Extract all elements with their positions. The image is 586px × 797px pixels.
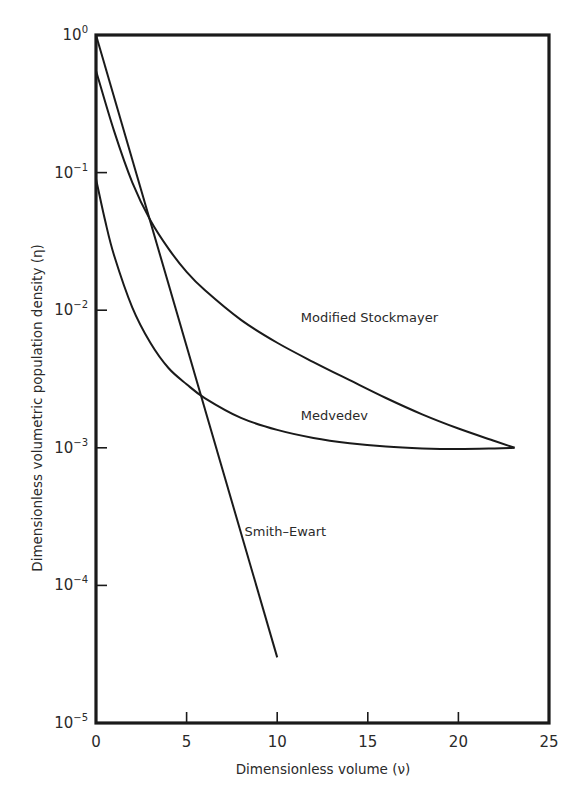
series-line-smith-ewart: [96, 35, 277, 657]
series-label: Medvedev: [301, 408, 368, 423]
x-tick-label: 15: [358, 733, 377, 751]
annotation-group: Modified StockmayerMedvedevSmith–Ewart: [245, 310, 439, 539]
chart: 0510152025 10010−110−210−310−410−5 Modif…: [0, 0, 586, 797]
x-tick-label: 25: [539, 733, 558, 751]
x-axis: 0510152025: [91, 712, 558, 751]
y-tick-label: 100: [63, 24, 88, 44]
y-tick-label: 10−2: [54, 299, 88, 319]
y-tick-label: 10−5: [54, 712, 88, 732]
x-tick-label: 5: [182, 733, 192, 751]
series-label: Modified Stockmayer: [301, 310, 439, 325]
y-tick-label: 10−1: [54, 162, 88, 182]
plot-frame: [96, 35, 549, 723]
x-tick-label: 0: [91, 733, 101, 751]
x-tick-label: 10: [268, 733, 287, 751]
series-group: [96, 35, 515, 657]
plot-border: [96, 35, 549, 723]
series-line-modified-stockmayer: [96, 71, 515, 448]
series-label: Smith–Ewart: [245, 524, 327, 539]
x-axis-title: Dimensionless volume (ν): [236, 761, 411, 777]
y-axis-title: Dimensionless volumetric population dens…: [29, 244, 45, 572]
y-tick-label: 10−3: [54, 437, 88, 457]
y-axis: 10010−110−210−310−410−5: [54, 24, 107, 732]
y-tick-label: 10−4: [54, 574, 88, 594]
x-tick-label: 20: [449, 733, 468, 751]
